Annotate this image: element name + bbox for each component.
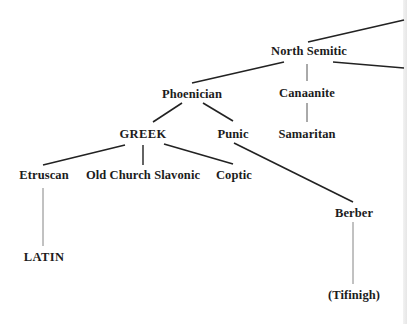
edge-north-semitic-parent [308,20,404,42]
edge-phoenician-punic [203,103,233,121]
node-coptic: Coptic [216,168,252,182]
node-berber: Berber [335,206,373,220]
node-greek: GREEK [119,127,166,141]
edge-north-semitic-phoenician [192,62,284,83]
node-punic: Punic [217,127,248,141]
node-phoenician: Phoenician [162,87,222,101]
node-canaanite: Canaanite [279,86,335,100]
node-latin: LATIN [24,250,65,264]
edge-greek-etruscan [43,145,125,165]
node-tifinigh: (Tifinigh) [328,288,380,302]
node-north-semitic: North Semitic [271,44,347,58]
node-samaritan: Samaritan [278,127,335,141]
edge-north-semitic-right [333,62,404,68]
edge-greek-coptic [164,144,233,164]
node-old-church-slavonic: Old Church Slavonic [86,168,200,182]
edge-phoenician-greek [153,103,182,122]
node-etruscan: Etruscan [19,168,68,182]
